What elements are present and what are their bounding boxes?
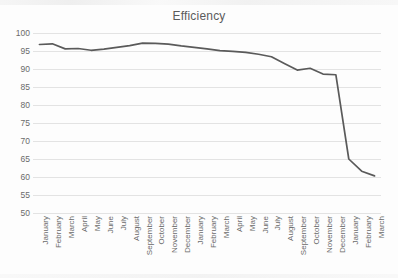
x-axis-tick-label: June [262, 216, 270, 233]
x-axis-tick-label: December [339, 216, 347, 253]
x-axis-tick-label: September [300, 216, 308, 255]
x-axis-tick-label: March [68, 216, 76, 238]
x-axis-tick-label: January [352, 216, 360, 244]
y-axis-tick-label: 95 [0, 46, 30, 56]
x-axis-tick-label: July [274, 216, 282, 230]
y-axis-tick-label: 100 [0, 28, 30, 38]
x-axis-tick-label: May [94, 216, 102, 231]
y-axis-tick-label: 90 [0, 64, 30, 74]
y-axis-tick-label: 70 [0, 136, 30, 146]
x-axis-tick-label: February [55, 216, 63, 248]
x-axis-tick-label: February [210, 216, 218, 248]
x-axis-tick-label: January [42, 216, 50, 244]
x-axis-tick-label: September [146, 216, 154, 255]
y-axis-tick-label: 55 [0, 190, 30, 200]
y-axis-tick-label: 65 [0, 154, 30, 164]
x-axis-tick-label: December [184, 216, 192, 253]
x-axis: JanuaryFebruaryMarchAprilMayJuneJulyAugu… [33, 216, 381, 276]
x-axis-tick-label: April [81, 216, 89, 232]
x-axis-tick-label: October [313, 216, 321, 244]
line-chart: Efficiency 10095908580757065605550 Janua… [0, 0, 398, 278]
chart-title: Efficiency [0, 9, 398, 23]
x-axis-tick-label: March [223, 216, 231, 238]
x-axis-tick-label: August [287, 216, 295, 241]
y-axis-tick-label: 50 [0, 208, 30, 218]
y-axis-tick-label: 85 [0, 82, 30, 92]
x-axis-tick-label: February [365, 216, 373, 248]
y-axis: 10095908580757065605550 [0, 33, 30, 213]
y-axis-tick-label: 75 [0, 118, 30, 128]
gridline [33, 213, 381, 214]
x-axis-tick-label: August [133, 216, 141, 241]
x-axis-tick-label: January [197, 216, 205, 244]
scan-noise-bottom [0, 274, 398, 278]
x-axis-tick-label: November [171, 216, 179, 253]
x-axis-tick-label: May [249, 216, 257, 231]
x-axis-tick-label: June [107, 216, 115, 233]
scan-noise-top [0, 0, 398, 5]
x-axis-tick-label: November [326, 216, 334, 253]
x-axis-tick-label: October [158, 216, 166, 244]
plot-area [33, 33, 381, 213]
x-axis-tick-label: July [120, 216, 128, 230]
y-axis-tick-label: 60 [0, 172, 30, 182]
x-axis-tick-label: March [378, 216, 386, 238]
x-axis-tick-label: April [236, 216, 244, 232]
y-axis-tick-label: 80 [0, 100, 30, 110]
series-line-efficiency [33, 33, 381, 213]
